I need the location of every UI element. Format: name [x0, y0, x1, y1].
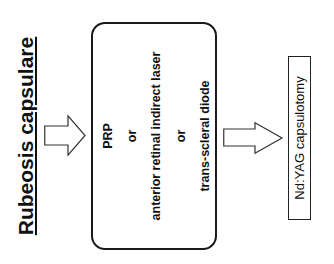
arrow-right-icon — [44, 115, 86, 156]
outcome-label-nd-yag-capsulotomy: Nd:YAG capsulotomy — [292, 76, 307, 199]
treatment-line-prp: PRP — [101, 123, 115, 149]
treatment-line-trans-scleral-diode: trans-scleral diode — [198, 80, 212, 191]
arrow-right-icon — [223, 122, 283, 154]
treatment-line-or-2: or — [174, 130, 188, 143]
title-rubeosis-capsulare: Rubeosis capsulare — [14, 37, 38, 235]
treatment-line-or-1: or — [125, 130, 139, 143]
treatment-line-anterior-retinal-indirect-laser: anterior retinal indirect laser — [149, 52, 163, 221]
